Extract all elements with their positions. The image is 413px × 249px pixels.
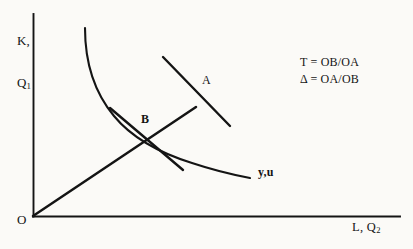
formula-annotations: T = OB/OA Δ = OA/OB — [300, 55, 359, 89]
x-axis-label: L, Q2 — [352, 221, 381, 234]
y-axis-label-line1: K, — [17, 34, 31, 50]
x-axis-label-base: L, Q — [352, 220, 376, 234]
formula-line-t: T = OB/OA — [300, 55, 359, 72]
y-axis-label: K, Q1 — [17, 8, 31, 118]
x-axis-label-subscript: 2 — [376, 225, 381, 235]
y-axis-label-line2-base: Q — [17, 75, 27, 90]
formula-line-delta: Δ = OA/OB — [300, 72, 359, 89]
isoquant-curve-label: y,u — [258, 166, 274, 178]
y-axis-label-line2: Q1 — [17, 76, 31, 92]
point-a-label: A — [202, 74, 211, 86]
point-b-label: B — [141, 113, 149, 125]
figure-canvas: K, Q1 L, Q2 O A B y,u T = OB/OA Δ = OA/O… — [0, 0, 413, 249]
isocost-line-at-a — [163, 57, 230, 126]
diagram-svg — [0, 0, 413, 249]
y-axis-label-line2-subscript: 1 — [27, 81, 32, 91]
origin-label: O — [17, 213, 26, 226]
